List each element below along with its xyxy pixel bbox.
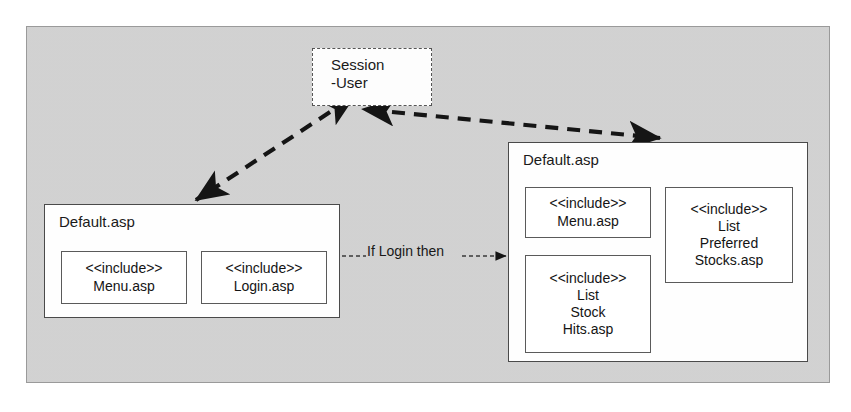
session-user-node[interactable]: Session -User: [312, 48, 432, 106]
include-box-list-stock-hits-asp[interactable]: <<include>> List Stock Hits.asp: [525, 255, 651, 353]
include-box-list-preferred-stocks-asp[interactable]: <<include>> List Preferred Stocks.asp: [665, 187, 793, 283]
connector-label-if-login-then: If Login then: [367, 243, 444, 259]
include-box-menu-asp-left[interactable]: <<include>> Menu.asp: [61, 251, 187, 304]
session-user-label: Session -User: [331, 56, 431, 91]
include-box-menu-asp-right[interactable]: <<include>> Menu.asp: [525, 187, 651, 238]
page-node-default-asp-left[interactable]: Default.asp <<include>> Menu.asp <<inclu…: [44, 204, 340, 318]
page-left-title: Default.asp: [59, 213, 135, 231]
page-right-title: Default.asp: [523, 151, 599, 169]
include-box-login-asp[interactable]: <<include>> Login.asp: [201, 251, 327, 304]
page-node-default-asp-right[interactable]: Default.asp <<include>> Menu.asp <<inclu…: [508, 142, 808, 362]
